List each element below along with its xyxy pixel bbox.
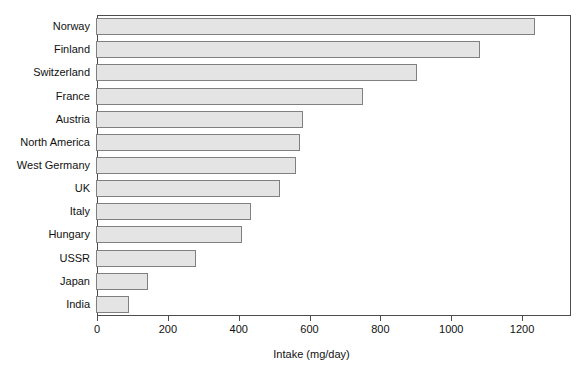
- bar: [96, 226, 242, 243]
- bar: [96, 18, 535, 35]
- bar: [96, 41, 480, 58]
- x-tick: [451, 316, 452, 321]
- x-tick: [239, 316, 240, 321]
- bar: [96, 64, 417, 81]
- x-tick: [380, 316, 381, 321]
- bar: [96, 157, 296, 174]
- x-tick-label: 800: [371, 323, 389, 335]
- x-tick: [97, 316, 98, 321]
- category-label: India: [0, 296, 90, 313]
- x-axis-title-text: Intake (mg/day): [273, 348, 349, 360]
- bar: [96, 296, 129, 313]
- x-tick: [168, 316, 169, 321]
- category-label: Austria: [0, 111, 90, 128]
- x-tick-label: 200: [159, 323, 177, 335]
- bar-chart: NorwayFinlandSwitzerlandFranceAustriaNor…: [0, 0, 583, 375]
- category-label: Norway: [0, 18, 90, 35]
- category-label: North America: [0, 134, 90, 151]
- x-tick: [310, 316, 311, 321]
- x-tick-label: 600: [300, 323, 318, 335]
- category-label: Hungary: [0, 226, 90, 243]
- x-axis-title: Intake (mg/day): [0, 348, 583, 360]
- category-label: Finland: [0, 41, 90, 58]
- x-tick-label: 1200: [510, 323, 534, 335]
- category-label: Japan: [0, 273, 90, 290]
- category-label: UK: [0, 180, 90, 197]
- category-label: West Germany: [0, 157, 90, 174]
- x-tick-label: 0: [94, 323, 100, 335]
- category-axis-labels: NorwayFinlandSwitzerlandFranceAustriaNor…: [0, 15, 90, 316]
- category-label: France: [0, 88, 90, 105]
- x-tick-label: 1000: [439, 323, 463, 335]
- category-label: Italy: [0, 203, 90, 220]
- bar: [96, 250, 196, 267]
- bar: [96, 273, 148, 290]
- category-label: USSR: [0, 250, 90, 267]
- bar: [96, 203, 251, 220]
- bar: [96, 134, 300, 151]
- x-tick-label: 400: [230, 323, 248, 335]
- bar: [96, 88, 363, 105]
- bar: [96, 180, 280, 197]
- x-tick: [522, 316, 523, 321]
- category-label: Switzerland: [0, 64, 90, 81]
- bar: [96, 111, 303, 128]
- bars-layer: [97, 15, 571, 316]
